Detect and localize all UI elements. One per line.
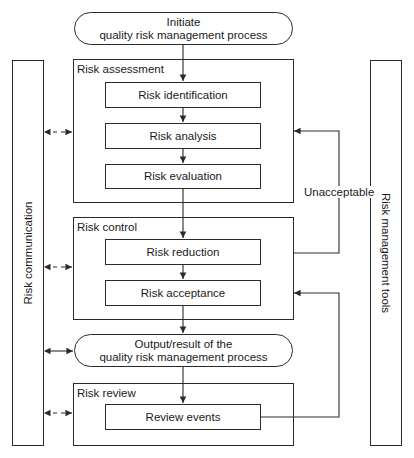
risk-control-label: Risk control <box>77 221 137 233</box>
start-node: Initiate quality risk management process <box>74 12 293 45</box>
risk-management-tools-column: Risk management tools <box>370 60 402 446</box>
risk-reduction-node: Risk reduction <box>105 239 261 265</box>
risk-assessment-label: Risk assessment <box>77 63 164 75</box>
risk-identification-node: Risk identification <box>105 82 261 108</box>
risk-evaluation-node: Risk evaluation <box>105 164 261 189</box>
risk-communication-label: Risk communication <box>22 202 34 305</box>
risk-management-tools-label: Risk management tools <box>380 193 392 313</box>
output-line1: Output/result of the <box>135 338 233 351</box>
output-node: Output/result of the quality risk manage… <box>74 334 293 367</box>
start-line1: Initiate <box>167 16 201 29</box>
risk-acceptance-node: Risk acceptance <box>105 280 261 306</box>
risk-analysis-node: Risk analysis <box>105 123 261 149</box>
output-line2: quality risk management process <box>99 351 267 364</box>
review-events-node: Review events <box>105 404 261 430</box>
risk-communication-column: Risk communication <box>12 60 44 446</box>
unacceptable-label: Unacceptable <box>303 186 375 198</box>
risk-review-label: Risk review <box>77 387 136 399</box>
start-line2: quality risk management process <box>99 29 267 42</box>
